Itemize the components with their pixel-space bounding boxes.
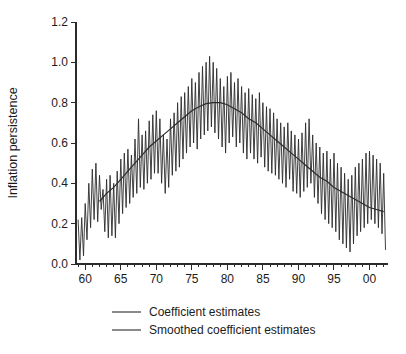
x-tick-label: 75 [185, 272, 199, 286]
legend-entry: Coefficient estimates [112, 305, 260, 319]
legend: Coefficient estimatesSmoothed coefficien… [112, 305, 316, 337]
x-tick-label: 70 [150, 272, 164, 286]
y-tick-label: 0.0 [51, 257, 68, 271]
legend-entry: Smoothed coefficient estimates [112, 323, 316, 337]
x-tick-label: 95 [327, 272, 341, 286]
series-lines [78, 56, 385, 260]
series-line-coefficient [78, 56, 385, 260]
y-tick-label: 0.6 [51, 136, 68, 150]
x-tick-label: 80 [221, 272, 235, 286]
y-tick-label: 1.2 [51, 15, 68, 29]
axes: 0.00.20.40.60.81.01.2606570758085909500 [51, 15, 388, 286]
legend-label: Smoothed coefficient estimates [149, 323, 316, 337]
series-line-smoothed [100, 103, 384, 212]
y-tick-label: 0.2 [51, 217, 68, 231]
x-tick-label: 90 [292, 272, 306, 286]
y-axis-title: Inflation persistence [6, 87, 20, 198]
y-tick-label: 1.0 [51, 55, 68, 69]
chart-canvas: Inflation persistence 0.00.20.40.60.81.0… [0, 0, 406, 354]
x-tick-label: 65 [114, 272, 128, 286]
legend-label: Coefficient estimates [149, 305, 260, 319]
y-tick-label: 0.4 [51, 176, 68, 190]
x-tick-label: 85 [256, 272, 270, 286]
y-tick-label: 0.8 [51, 96, 68, 110]
x-tick-label: 60 [79, 272, 93, 286]
inflation-persistence-chart: Inflation persistence 0.00.20.40.60.81.0… [0, 0, 406, 354]
x-tick-label: 00 [363, 272, 377, 286]
